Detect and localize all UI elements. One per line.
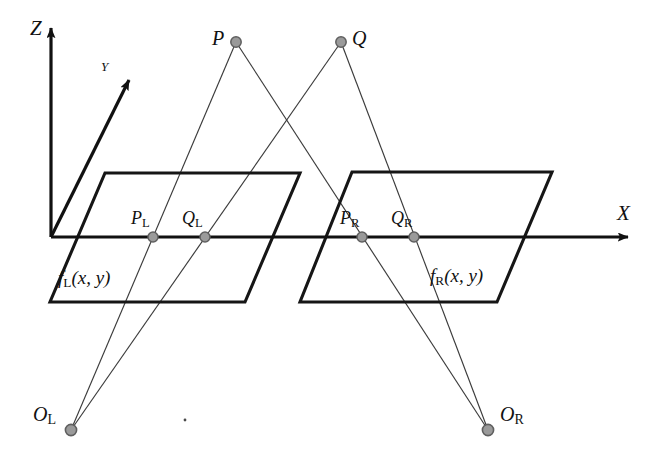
x-axis-label: X xyxy=(617,203,630,224)
stereo-geometry-figure: Z Y X P Q PL QL PR QR OL OR fL(x, y) fR(… xyxy=(0,0,661,460)
marker-Q-R xyxy=(409,232,419,242)
marker-P-R xyxy=(357,232,367,242)
camera-center-label-O-R: OR xyxy=(500,404,524,427)
image-point-label-Q-R-sub: R xyxy=(404,216,412,230)
marker-Q xyxy=(336,37,346,47)
image-point-label-P-L-sub: L xyxy=(142,216,150,230)
image-point-label-Q-R-main: Q xyxy=(391,208,404,228)
marker-O-R xyxy=(482,424,493,435)
left-image-plane-label-tail: (x, y) xyxy=(71,267,110,288)
image-point-label-P-L: PL xyxy=(131,209,150,229)
scene-point-label-Q: Q xyxy=(352,28,366,48)
image-point-label-Q-L-sub: L xyxy=(195,216,203,230)
marker-O-L xyxy=(65,424,76,435)
image-point-label-P-R: PR xyxy=(340,209,359,229)
figure-canvas xyxy=(0,0,661,460)
image-point-label-Q-R: QR xyxy=(391,209,412,229)
y-axis-label: Y xyxy=(101,60,108,73)
image-point-label-P-L-main: P xyxy=(131,208,142,228)
camera-center-label-O-L-main: O xyxy=(33,403,47,425)
stray-speck xyxy=(184,419,187,422)
marker-Q-L xyxy=(200,232,210,242)
image-point-label-Q-L: QL xyxy=(182,209,203,229)
right-image-plane-label-tail: (x, y) xyxy=(444,265,483,286)
right-image-plane-label: fR(x, y) xyxy=(430,266,483,287)
scene-point-label-P: P xyxy=(212,28,224,48)
right-image-plane-label-sub: R xyxy=(435,273,444,288)
marker-P-L xyxy=(148,232,158,242)
camera-center-label-O-R-main: O xyxy=(500,403,514,425)
image-point-label-P-R-main: P xyxy=(340,208,351,228)
image-point-label-P-R-sub: R xyxy=(351,216,359,230)
marker-P xyxy=(231,37,241,47)
left-image-plane-label: fL(x, y) xyxy=(58,268,110,289)
y-axis xyxy=(51,80,129,237)
image-point-label-Q-L-main: Q xyxy=(182,208,195,228)
camera-center-label-O-L: OL xyxy=(33,404,56,427)
camera-center-label-O-R-sub: R xyxy=(514,412,523,427)
z-axis-label: Z xyxy=(30,18,42,39)
camera-center-label-O-L-sub: L xyxy=(47,412,56,427)
